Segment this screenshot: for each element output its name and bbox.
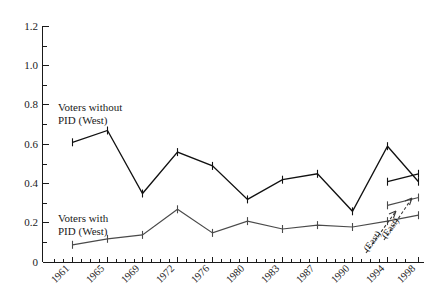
y-tick-label: 1.0 [24, 59, 38, 71]
x-tick-label: 1961 [49, 263, 72, 286]
y-tick-label: 0.2 [24, 216, 38, 228]
line-chart: 1.2 1.0 0.8 0.6 0.4 0.2 0 [0, 0, 435, 307]
y-major-ticks [43, 27, 49, 263]
series-with-pid-east [388, 194, 419, 210]
series-without-pid-east [388, 170, 419, 186]
y-tick-label: 0.6 [24, 138, 38, 150]
x-tick-label: 1972 [154, 263, 177, 286]
x-tick-label: 1980 [224, 263, 247, 286]
annotation-line-1: Voters with [58, 212, 109, 224]
annotation-with-pid-west: Voters with PID (West) [58, 212, 109, 238]
x-major-ticks [73, 257, 419, 263]
y-tick-labels: 1.2 1.0 0.8 0.6 0.4 0.2 0 [24, 20, 38, 268]
x-tick-label: 1994 [364, 262, 387, 285]
x-tick-label: 1983 [259, 263, 282, 286]
east-callout-label: (East) [380, 216, 402, 241]
x-tick-label: 1990 [329, 263, 352, 286]
x-tick-labels: 1961 1965 1969 1972 1976 1980 1983 1987 … [49, 262, 418, 285]
annotation-line-1: Voters without [58, 101, 122, 113]
y-tick-label: 0.8 [24, 98, 38, 110]
x-tick-label: 1987 [294, 263, 317, 286]
east-callout-upper: (East) [380, 198, 412, 241]
x-tick-label: 1976 [189, 263, 212, 286]
y-tick-label: 0 [33, 256, 39, 268]
x-tick-label: 1965 [84, 263, 107, 286]
chart-container: 1.2 1.0 0.8 0.6 0.4 0.2 0 [0, 0, 435, 307]
annotation-line-2: PID (West) [58, 225, 108, 238]
annotation-line-2: PID (West) [58, 114, 108, 127]
annotation-without-pid-west: Voters without PID (West) [58, 101, 122, 127]
y-tick-label: 1.2 [24, 20, 38, 32]
series-without-pid-west [73, 127, 419, 216]
x-tick-label: 1998 [395, 263, 418, 286]
x-tick-label: 1969 [119, 263, 142, 286]
y-tick-label: 0.4 [24, 177, 38, 189]
